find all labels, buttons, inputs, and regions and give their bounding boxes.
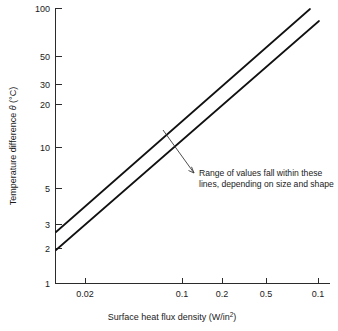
x-label-4: 0.1 [312, 289, 325, 299]
x-axis-tick-labels: 0.02 0.1 0.2 0.5 0.1 [76, 289, 324, 299]
x-label-3: 0.5 [260, 289, 273, 299]
y-axis-title: Temperature difference θ (°C) [8, 87, 18, 205]
annotation-line-1: Range of values fall within these [199, 168, 322, 178]
log-log-chart: 100 50 30 20 10 5 3 2 1 0.02 0.1 0.2 0.5… [0, 0, 338, 331]
y-label-2: 30 [40, 80, 50, 90]
y-label-7: 2 [45, 244, 50, 254]
y-label-8: 1 [45, 279, 50, 289]
y-title-pre: Temperature difference [8, 110, 18, 205]
y-label-0: 100 [35, 4, 50, 14]
x-label-2: 0.2 [216, 289, 229, 299]
y-label-5: 5 [45, 184, 50, 194]
y-label-6: 3 [45, 220, 50, 230]
x-title-close: ) [233, 312, 236, 322]
leader-line-path [163, 130, 194, 173]
upper-bound-line [56, 9, 310, 232]
annotation-text-block: Range of values fall within these lines,… [199, 168, 334, 189]
annotation-line-2: lines, depending on size and shape [199, 179, 334, 189]
chart-figure: 100 50 30 20 10 5 3 2 1 0.02 0.1 0.2 0.5… [0, 0, 338, 331]
y-label-1: 50 [40, 52, 50, 62]
annotation-leader [163, 130, 194, 173]
data-bound-lines [56, 9, 319, 250]
y-axis-ticks [56, 9, 62, 249]
svg-text:Surface heat flux density (W/i: Surface heat flux density (W/in2) [108, 311, 237, 322]
x-axis-ticks [86, 278, 319, 284]
axis-frame [56, 8, 331, 284]
svg-text:Temperature difference θ (°C): Temperature difference θ (°C) [8, 87, 18, 205]
y-title-post: (°C) [8, 87, 18, 106]
x-axis-title: Surface heat flux density (W/in2) [108, 311, 237, 322]
x-label-0: 0.02 [76, 289, 94, 299]
y-axis-tick-labels: 100 50 30 20 10 5 3 2 1 [35, 4, 50, 289]
y-label-3: 20 [40, 100, 50, 110]
x-title-main: Surface heat flux density (W/in [108, 312, 230, 322]
x-label-1: 0.1 [176, 289, 189, 299]
lower-bound-line [56, 21, 319, 250]
y-label-4: 10 [40, 143, 50, 153]
